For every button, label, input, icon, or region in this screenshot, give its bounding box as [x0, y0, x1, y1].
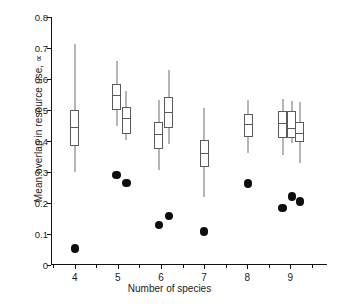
median-line [295, 133, 304, 134]
x-tick-mark [118, 265, 119, 269]
box-iqr [122, 107, 131, 134]
whisker-upper [282, 99, 283, 111]
box-iqr [154, 122, 163, 149]
x-tick-minor-mark [183, 265, 184, 268]
x-tick-label: 5 [115, 272, 121, 283]
x-tick-label: 9 [288, 272, 294, 283]
point-4-a [71, 244, 79, 252]
y-tick-label: 0.7 [35, 43, 48, 54]
median-line [154, 134, 163, 135]
point-9-b [288, 192, 296, 200]
point-5-a [112, 171, 120, 179]
whisker-lower [168, 128, 169, 144]
whisker-upper [116, 61, 117, 84]
whisker-upper [299, 102, 300, 122]
y-axis-line [51, 17, 52, 265]
x-tick-label: 4 [72, 272, 78, 283]
plot-area: 00.10.20.30.40.50.60.70.8 456789 [51, 17, 327, 265]
whisker-lower [282, 138, 283, 155]
median-line [112, 95, 121, 96]
median-line [200, 153, 209, 154]
median-line [70, 127, 79, 128]
x-tick-label: 6 [158, 272, 164, 283]
y-tick-label: 0.3 [35, 167, 48, 178]
whisker-lower [158, 149, 159, 169]
point-6-a [155, 221, 163, 229]
point-7-a [200, 227, 208, 235]
point-9-c [296, 197, 304, 205]
y-tick-label: 0.6 [35, 74, 48, 85]
x-tick-minor-mark [53, 265, 54, 268]
median-line [122, 118, 131, 119]
y-tick-label: 0.1 [35, 229, 48, 240]
whisker-upper [126, 91, 127, 107]
y-tick-label: 0.5 [35, 105, 48, 116]
y-tick-label: 0 [43, 260, 48, 271]
whisker-lower [126, 134, 127, 141]
x-tick-label: 8 [244, 272, 250, 283]
x-axis-line [51, 264, 327, 265]
y-tick-label: 0.2 [35, 198, 48, 209]
x-tick-minor-mark [96, 265, 97, 268]
whisker-lower [116, 110, 117, 126]
median-line [278, 123, 287, 124]
x-tick-minor-mark [312, 265, 313, 268]
whisker-upper [291, 101, 292, 112]
x-tick-mark [204, 265, 205, 269]
boxplot-figure: Mean overlap in resource use, ∝ 00.10.20… [0, 0, 339, 308]
whisker-upper [158, 100, 159, 122]
box-iqr [244, 114, 253, 137]
box-iqr [70, 110, 79, 146]
point-8-a [244, 179, 252, 187]
point-5-b [122, 179, 130, 187]
box-iqr [278, 111, 287, 138]
median-line [164, 112, 173, 113]
whisker-upper [248, 100, 249, 114]
x-tick-minor-mark [269, 265, 270, 268]
y-tick-label: 0.8 [35, 12, 48, 23]
x-axis-label: Number of species [0, 283, 339, 294]
x-tick-mark [161, 265, 162, 269]
whisker-upper [204, 108, 205, 139]
point-6-b [165, 212, 173, 220]
whisker-lower [204, 167, 205, 197]
x-tick-label: 7 [201, 272, 207, 283]
median-line [244, 124, 253, 125]
whisker-lower [74, 146, 75, 172]
y-tick-label: 0.4 [35, 136, 48, 147]
x-tick-mark [290, 265, 291, 269]
whisker-lower [248, 137, 249, 153]
x-tick-minor-mark [226, 265, 227, 268]
point-9-a [278, 204, 286, 212]
x-tick-minor-mark [139, 265, 140, 268]
whisker-lower [299, 142, 300, 162]
whisker-lower [291, 138, 292, 143]
whisker-upper [168, 70, 169, 96]
box-iqr [112, 84, 121, 110]
whisker-upper [74, 44, 75, 110]
x-tick-mark [75, 265, 76, 269]
x-tick-mark [247, 265, 248, 269]
